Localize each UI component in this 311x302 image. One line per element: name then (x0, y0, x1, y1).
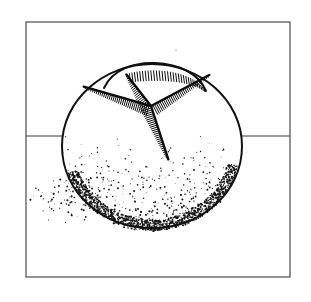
stipple-dot (201, 208, 203, 210)
stipple-dot (122, 223, 123, 224)
stipple-dot (68, 179, 69, 180)
stipple-dot (233, 164, 234, 165)
stipple-dot (174, 220, 175, 221)
stipple-dot (110, 184, 112, 186)
stipple-dot (90, 201, 92, 203)
stipple-dot (162, 198, 163, 199)
stipple-dot (182, 225, 183, 226)
stipple-dot (69, 176, 71, 178)
stipple-dot (219, 179, 221, 181)
stipple-dot (111, 218, 112, 219)
stipple-dot (152, 225, 153, 226)
stipple-dot (75, 171, 77, 173)
stipple-dot (162, 157, 163, 158)
stipple-dot (131, 178, 132, 179)
stipple-dot (183, 184, 185, 186)
stipple-dot (222, 191, 223, 192)
stipple-dot (191, 219, 192, 220)
shadow-dot (50, 200, 51, 201)
stipple-dot (208, 200, 209, 201)
stipple-dot (128, 155, 129, 156)
stipple-dot (172, 213, 174, 215)
stipple-dot (88, 185, 89, 186)
stipple-dot (175, 183, 176, 184)
stipple-dot (139, 214, 141, 216)
stipple-dot (149, 226, 151, 228)
stipple-dot (163, 213, 164, 214)
stipple-dot (233, 176, 235, 178)
stipple-dot (88, 182, 90, 184)
stipple-dot (201, 215, 203, 217)
stipple-dot (166, 192, 168, 194)
stipple-dot (135, 221, 136, 222)
stipple-dot (184, 194, 186, 196)
stipple-dot (231, 178, 232, 179)
stipple-dot (217, 185, 218, 186)
stipple-dot (167, 222, 168, 223)
stipple-dot (136, 219, 138, 221)
stipple-dot (214, 202, 216, 204)
stipple-dot (151, 230, 152, 231)
stipple-dot (221, 180, 222, 181)
stipple-dot (203, 202, 204, 203)
stipple-dot (74, 177, 76, 179)
stipple-dot (128, 217, 129, 218)
shadow-dot (54, 203, 55, 204)
stipple-dot (184, 221, 185, 222)
stipple-dot (209, 187, 211, 189)
stipple-dot (119, 204, 120, 205)
stipple-dot (212, 203, 214, 205)
stipple-dot (139, 229, 140, 230)
stipple-dot (134, 201, 136, 203)
stipple-dot (109, 218, 110, 219)
stipple-dot (236, 168, 237, 169)
bread-illustration (0, 0, 311, 302)
stipple-dot (182, 212, 183, 213)
stipple-dot (194, 213, 196, 215)
stipple-dot (169, 227, 170, 228)
stipple-dot (155, 228, 156, 229)
stipple-dot (211, 195, 213, 197)
stipple-dot (207, 202, 208, 203)
stipple-dot (158, 178, 159, 179)
stipple-dot (94, 199, 96, 201)
stipple-dot (146, 180, 148, 182)
stipple-dot (219, 200, 220, 201)
stipple-dot (171, 205, 172, 206)
stipple-dot (131, 225, 132, 226)
stipple-dot (128, 218, 130, 220)
stipple-dot (92, 204, 94, 206)
stipple-dot (102, 213, 104, 215)
stipple-dot (177, 222, 178, 223)
illustration-canvas (0, 0, 311, 302)
stipple-dot (188, 214, 190, 216)
stipple-dot (75, 165, 77, 167)
stipple-dot (100, 208, 101, 209)
shadow-dot (53, 180, 54, 181)
stipple-dot (79, 193, 80, 194)
stipple-dot (82, 193, 83, 194)
stipple-dot (168, 218, 170, 220)
stipple-dot (203, 182, 204, 183)
stipple-dot (143, 178, 144, 179)
stipple-dot (86, 203, 87, 204)
stipple-dot (206, 173, 207, 174)
stipple-dot (154, 229, 156, 231)
shadow-dot (43, 198, 44, 199)
stipple-dot (213, 167, 214, 168)
stipple-dot (211, 200, 212, 201)
stipple-dot (107, 212, 108, 213)
stipple-dot (172, 228, 173, 229)
stipple-dot (200, 206, 201, 207)
stipple-dot (184, 173, 186, 175)
stipple-dot (79, 186, 81, 188)
stipple-dot (106, 196, 107, 197)
stipple-dot (181, 206, 182, 207)
stipple-dot (159, 187, 161, 189)
stipple-dot (205, 193, 206, 194)
stipple-dot (69, 173, 71, 175)
stipple-dot (152, 215, 153, 216)
stipple-dot (195, 207, 196, 208)
stipple-dot (103, 207, 105, 209)
stipple-dot (177, 177, 178, 178)
